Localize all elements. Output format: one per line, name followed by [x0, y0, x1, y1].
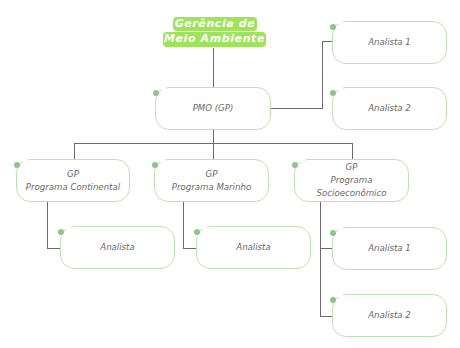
node-marinho-analyst[interactable]: Analista	[196, 226, 311, 269]
node-pmo-analyst-1[interactable]: Analista 1	[332, 21, 447, 64]
node-socioeconomico-analyst-2[interactable]: Analista 2	[332, 294, 447, 337]
node-gap	[335, 293, 343, 297]
node-label: Analista 2	[368, 102, 411, 115]
node-label: Analista	[236, 241, 270, 254]
node-gap	[335, 86, 343, 90]
node-label: Programa Marinho	[172, 181, 251, 194]
node-gap	[199, 225, 207, 229]
node-program-continental[interactable]: GP Programa Continental	[16, 159, 130, 202]
node-role: GP	[206, 168, 218, 181]
connector-pmo-down	[213, 130, 214, 144]
node-dot-icon	[330, 297, 336, 303]
node-dot-icon	[153, 90, 159, 96]
node-label: Programa Socioeconômico	[295, 174, 408, 200]
node-gap	[335, 226, 343, 230]
node-label: Analista 1	[368, 242, 411, 255]
connector-pmo-right	[270, 108, 323, 109]
node-pmo[interactable]: PMO (GP)	[155, 87, 271, 130]
connector-program3-drop	[352, 143, 353, 159]
node-role: GP	[346, 161, 358, 174]
connector-pmo-analysts-vertical	[322, 41, 323, 109]
node-label: Analista 1	[368, 36, 411, 49]
node-gap	[157, 158, 165, 162]
node-gap	[19, 158, 27, 162]
node-dot-icon	[330, 90, 336, 96]
node-label: Programa Continental	[26, 181, 120, 194]
connector-title-pmo	[213, 48, 214, 87]
node-label: Analista 2	[368, 309, 411, 322]
node-gap	[335, 20, 343, 24]
title-line-2: Meio Ambiente	[163, 32, 266, 47]
connector-program3-analysts-v	[320, 202, 321, 316]
title-line-1: Gerência de	[173, 17, 257, 31]
connector-program2-analyst-h	[183, 248, 197, 249]
node-dot-icon	[152, 162, 158, 168]
node-dot-icon	[330, 24, 336, 30]
node-gap	[158, 86, 166, 90]
node-gap	[297, 158, 305, 162]
node-dot-icon	[58, 229, 64, 235]
node-continental-analyst[interactable]: Analista	[60, 226, 175, 269]
node-program-marinho[interactable]: GP Programa Marinho	[154, 159, 269, 202]
node-program-socioeconomico[interactable]: GP Programa Socioeconômico	[294, 159, 409, 202]
connector-program1-analyst-h	[47, 248, 61, 249]
connector-program2-analyst-v	[183, 202, 184, 249]
node-pmo-analyst-2[interactable]: Analista 2	[332, 87, 447, 130]
connector-program1-drop	[74, 143, 75, 159]
node-dot-icon	[194, 229, 200, 235]
node-dot-icon	[330, 230, 336, 236]
connector-program1-analyst-v	[47, 202, 48, 249]
node-dot-icon	[14, 162, 20, 168]
connector-program2-drop	[213, 143, 214, 159]
node-dot-icon	[292, 162, 298, 168]
node-role: GP	[67, 168, 79, 181]
node-label: PMO (GP)	[193, 102, 234, 115]
node-label: Analista	[100, 241, 134, 254]
node-socioeconomico-analyst-1[interactable]: Analista 1	[332, 227, 447, 270]
node-gap	[63, 225, 71, 229]
